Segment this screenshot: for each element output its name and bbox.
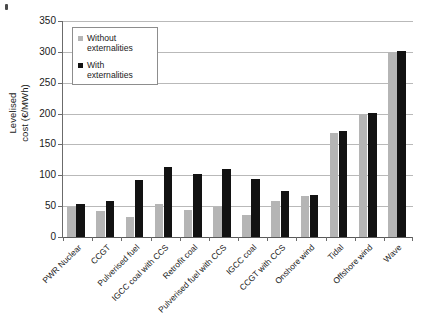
- bar: [388, 52, 397, 237]
- bar: [96, 211, 105, 237]
- legend-item-with-externalities: With externalities: [78, 60, 153, 80]
- bar: [184, 210, 193, 237]
- bar-group: [296, 21, 325, 237]
- bar: [251, 179, 260, 237]
- y-tick-300: [58, 52, 63, 53]
- legend-item-without-externalities: Without externalities: [78, 33, 153, 53]
- y-axis-label-300: 300: [12, 47, 56, 57]
- y-tick-250: [58, 83, 63, 84]
- bar: [368, 113, 377, 237]
- bar: [67, 207, 76, 237]
- x-axis-label-ccgt: CCGT: [89, 243, 112, 266]
- bar: [339, 131, 348, 237]
- chart-legend: Without externalities With externalities: [72, 27, 158, 85]
- y-axis-label-250: 250: [12, 78, 56, 88]
- legend-label-without-line-1: Without: [87, 33, 116, 43]
- bar: [106, 201, 115, 237]
- bar: [76, 204, 85, 237]
- legend-label-with-line-1: With: [87, 60, 104, 70]
- x-axis-label-tidal: Tidal: [326, 243, 345, 262]
- levelised-cost-bar-chart: Levelised cost (€/MWh) 05010015020025030…: [0, 0, 424, 330]
- legend-label-with-line-2: externalities: [87, 70, 133, 80]
- legend-swatch-with-externalities: [78, 63, 83, 68]
- bar: [397, 51, 406, 237]
- y-tick-100: [58, 175, 63, 176]
- bar: [126, 217, 135, 237]
- y-tick-150: [58, 144, 63, 145]
- bar: [301, 196, 310, 237]
- y-tick-350: [58, 21, 63, 22]
- bar-group: [355, 21, 384, 237]
- bar: [310, 195, 319, 237]
- x-axis-category-labels: PWR NuclearCCGTPulverised fuelIGCC coal …: [0, 237, 424, 330]
- y-tick-50: [58, 206, 63, 207]
- bar-group: [209, 21, 238, 237]
- bar-group: [267, 21, 296, 237]
- bar: [164, 167, 173, 237]
- bar: [242, 215, 251, 237]
- legend-label-without-line-2: externalities: [87, 43, 133, 53]
- bar: [222, 169, 231, 237]
- bar: [193, 174, 202, 237]
- bar: [155, 204, 164, 237]
- legend-label-without-externalities: Without externalities: [87, 33, 133, 53]
- bar-group: [238, 21, 267, 237]
- x-axis-label-wave: Wave: [382, 243, 403, 264]
- bar-group: [180, 21, 209, 237]
- y-tick-200: [58, 114, 63, 115]
- y-axis-label-50: 50: [12, 201, 56, 211]
- legend-swatch-without-externalities: [78, 36, 83, 41]
- y-tick-0: [58, 237, 63, 238]
- y-axis-label-100: 100: [12, 170, 56, 180]
- bar: [330, 133, 339, 237]
- bar: [271, 201, 280, 237]
- y-axis-label-150: 150: [12, 139, 56, 149]
- bar-group: [384, 21, 413, 237]
- bar-group: [326, 21, 355, 237]
- bar: [213, 207, 222, 237]
- legend-label-with-externalities: With externalities: [87, 60, 133, 80]
- y-axis-label-350: 350: [12, 16, 56, 26]
- bar: [135, 180, 144, 237]
- y-axis-label-200: 200: [12, 109, 56, 119]
- bar: [359, 114, 368, 237]
- bar: [281, 191, 290, 237]
- x-axis-label-pwr-nuclear: PWR Nuclear: [41, 243, 83, 285]
